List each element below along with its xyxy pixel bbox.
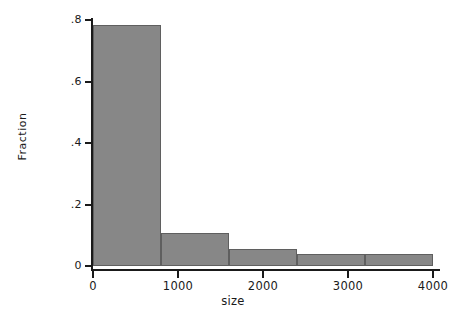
histogram-bar — [93, 25, 161, 266]
y-axis-tick — [85, 204, 92, 206]
x-axis-tick-label: 2000 — [248, 279, 278, 293]
histogram-bar — [365, 254, 433, 266]
x-axis-tick — [177, 271, 179, 278]
y-axis-tick-label: 0 — [52, 259, 82, 272]
x-axis-tick — [262, 271, 264, 278]
x-axis-tick — [347, 271, 349, 278]
y-axis-title: Fraction — [16, 97, 29, 177]
x-axis-line — [91, 269, 440, 271]
y-axis-tick-label: .2 — [52, 198, 82, 211]
histogram-bar — [229, 249, 297, 266]
x-axis-tick-label: 0 — [89, 279, 97, 293]
y-axis-tick-label: .6 — [52, 75, 82, 88]
histogram-bar — [161, 233, 229, 266]
plot-area: 0.2.4.6.8 01000200030004000 Fraction siz… — [0, 0, 466, 310]
y-axis-tick — [85, 19, 92, 21]
y-axis-tick-label: .8 — [52, 13, 82, 26]
y-axis-tick — [85, 265, 92, 267]
y-axis-tick — [85, 81, 92, 83]
x-axis-tick — [92, 271, 94, 278]
x-axis-title: size — [0, 294, 466, 308]
histogram-bar — [297, 254, 365, 266]
x-axis-tick-label: 1000 — [163, 279, 193, 293]
y-axis-tick — [85, 142, 92, 144]
x-axis-tick — [432, 271, 434, 278]
x-axis-tick-label: 3000 — [333, 279, 363, 293]
x-axis-tick-label: 4000 — [418, 279, 448, 293]
y-axis-tick-label: .4 — [52, 136, 82, 149]
histogram-chart: 0.2.4.6.8 01000200030004000 Fraction siz… — [0, 0, 466, 310]
